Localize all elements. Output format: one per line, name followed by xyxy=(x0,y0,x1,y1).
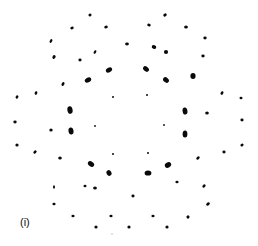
diffraction-spot xyxy=(105,66,113,73)
diffraction-spot xyxy=(163,13,168,17)
diffraction-spot xyxy=(87,160,95,168)
diffraction-spot xyxy=(58,156,62,159)
diffraction-spot xyxy=(163,124,165,126)
diffraction-spot xyxy=(182,107,188,115)
diffraction-spot xyxy=(70,26,74,30)
diffraction-spot xyxy=(105,169,112,176)
diffraction-spot xyxy=(146,94,148,96)
diffraction-spot xyxy=(184,26,188,29)
diffraction-spot xyxy=(34,91,38,95)
diffraction-spot xyxy=(206,202,211,207)
diffraction-spot xyxy=(61,82,65,87)
diffraction-spot xyxy=(220,91,224,96)
diffraction-spot xyxy=(175,181,178,184)
diffraction-spot xyxy=(127,226,130,229)
diffraction-spot xyxy=(145,170,152,175)
diffraction-spot xyxy=(84,76,92,84)
diffraction-spot xyxy=(164,161,172,169)
diffraction-spot xyxy=(183,131,188,138)
panel-label: (i) xyxy=(20,216,30,228)
diffraction-spot xyxy=(142,65,150,73)
diffraction-spot xyxy=(151,44,157,49)
diffraction-spot xyxy=(104,25,108,29)
diffraction-spot xyxy=(240,119,243,122)
diffraction-spot xyxy=(112,153,114,155)
diffraction-spot xyxy=(49,129,52,132)
diffraction-spot xyxy=(147,152,149,154)
diffraction-spots xyxy=(0,0,258,246)
diffraction-spot xyxy=(222,151,225,154)
diffraction-spot xyxy=(49,39,53,44)
diffraction-spot xyxy=(196,156,201,161)
diffraction-spot xyxy=(15,95,19,99)
diffraction-spot xyxy=(52,203,55,206)
diffraction-spot xyxy=(111,233,113,235)
diffraction-spot xyxy=(112,96,114,98)
diffraction-spot xyxy=(67,106,73,114)
diffraction-spot xyxy=(71,215,74,218)
diffraction-spot xyxy=(88,13,92,17)
diffraction-pattern-figure: (i) xyxy=(0,0,258,246)
diffraction-spot xyxy=(190,73,195,79)
diffraction-spot xyxy=(147,23,151,27)
diffraction-spot xyxy=(240,97,243,100)
diffraction-spot xyxy=(33,150,38,154)
diffraction-spot xyxy=(203,37,206,40)
diffraction-spot xyxy=(68,127,74,135)
diffraction-spot xyxy=(131,195,134,198)
diffraction-spot xyxy=(164,50,168,54)
diffraction-spot xyxy=(202,184,207,188)
diffraction-spot xyxy=(93,50,97,54)
diffraction-spot xyxy=(162,76,170,84)
diffraction-spot xyxy=(240,143,244,147)
diffraction-spot xyxy=(165,226,168,229)
diffraction-spot xyxy=(94,226,97,229)
diffraction-spot xyxy=(151,215,154,218)
diffraction-spot xyxy=(205,112,209,115)
diffraction-spot xyxy=(125,43,129,46)
diffraction-spot xyxy=(84,185,87,188)
diffraction-spot xyxy=(78,59,81,62)
diffraction-spot xyxy=(186,215,190,219)
diffraction-spot xyxy=(13,121,16,124)
diffraction-spot xyxy=(94,125,96,127)
diffraction-spot xyxy=(93,186,97,189)
diffraction-spot xyxy=(53,185,55,189)
diffraction-spot xyxy=(109,215,112,218)
diffraction-spot xyxy=(52,55,56,60)
diffraction-spot xyxy=(201,55,204,58)
diffraction-spot xyxy=(15,144,18,147)
